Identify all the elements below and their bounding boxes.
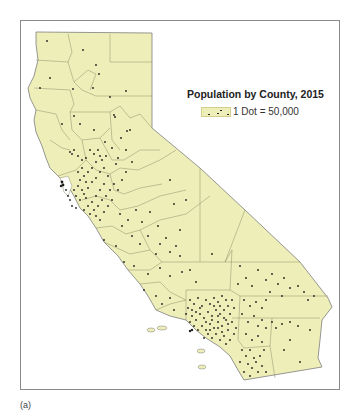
- legend-label: 1 Dot = 50,000: [233, 106, 299, 117]
- dot-symbol-swatch: [201, 107, 231, 117]
- california-dot-density-map: [0, 0, 359, 415]
- channel-islands: [147, 326, 206, 369]
- figure-caption: (a): [20, 400, 31, 410]
- map-legend: Population by County, 2015 1 Dot = 50,00…: [187, 88, 337, 117]
- legend-title: Population by County, 2015: [187, 88, 337, 100]
- state-outline: [28, 32, 332, 380]
- legend-entry: 1 Dot = 50,000: [201, 106, 337, 117]
